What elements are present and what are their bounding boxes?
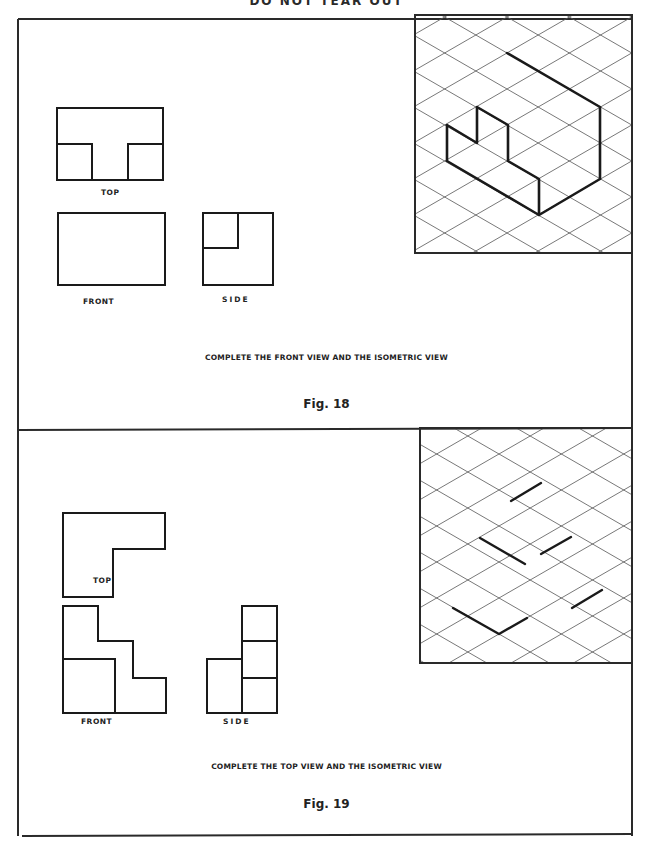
- fig19-front-view: [63, 606, 166, 713]
- fig19-caption: Fig. 19: [0, 797, 653, 811]
- fig19-instruction: COMPLETE THE TOP VIEW AND THE ISOMETRIC …: [0, 762, 653, 771]
- fig19-side-label: SIDE: [223, 717, 251, 726]
- fig18-caption: Fig. 18: [0, 397, 653, 411]
- fig18-side-view: [203, 213, 273, 285]
- fig19-top-view: [63, 513, 165, 597]
- fig18-top-label: TOP: [101, 188, 120, 197]
- fig18-front-label: FRONT: [83, 297, 114, 306]
- fig18-isometric-partial-object: [447, 53, 600, 215]
- fig19-side-view: [207, 606, 277, 713]
- fig18-top-view: [57, 108, 163, 180]
- fig18-instruction: COMPLETE THE FRONT VIEW AND THE ISOMETRI…: [0, 353, 653, 362]
- fig18-side-label: SIDE: [222, 295, 250, 304]
- fig19-top-label: TOP: [93, 576, 112, 585]
- fig19-isometric-box: [420, 428, 632, 663]
- fig18-front-view: [58, 213, 165, 285]
- fig19-front-label: FRONT: [81, 717, 112, 726]
- worksheet-drawing: [0, 0, 653, 861]
